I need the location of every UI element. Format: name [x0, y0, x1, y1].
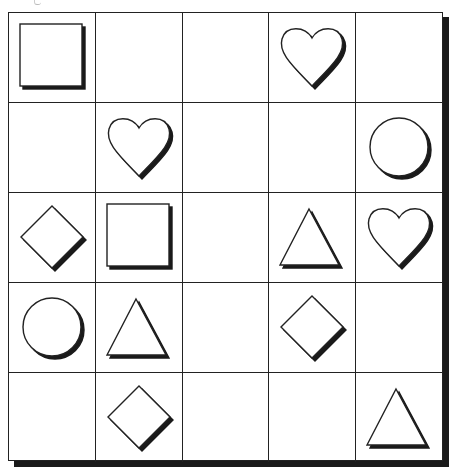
heart-icon	[356, 193, 442, 282]
puzzle-stage	[0, 0, 459, 472]
grid-cell-r5-c2	[96, 373, 183, 462]
grid-cell-r4-c1	[9, 283, 96, 373]
grid-cell-r4-c3	[183, 283, 269, 373]
grid-cell-r1-c1	[9, 13, 96, 103]
diamond-icon	[269, 283, 355, 372]
diamond-icon	[9, 193, 95, 282]
grid-cell-r2-c5	[356, 103, 442, 193]
grid-cell-r1-c4	[269, 13, 356, 103]
grid-cell-r3-c1	[9, 193, 96, 283]
circle-icon	[356, 103, 442, 192]
triangle-icon	[269, 193, 355, 282]
grid-cell-r1-c2	[96, 13, 183, 103]
grid-cell-r3-c5	[356, 193, 442, 283]
grid-cell-r2-c1	[9, 103, 96, 193]
grid-cell-r5-c1	[9, 373, 96, 462]
grid-cell-r5-c4	[269, 373, 356, 462]
grid-cell-r2-c4	[269, 103, 356, 193]
triangle-icon	[356, 373, 442, 462]
heart-icon	[96, 103, 182, 192]
grid-cell-r5-c3	[183, 373, 269, 462]
triangle-icon	[96, 283, 182, 372]
grid-cell-r1-c3	[183, 13, 269, 103]
grid-cell-r4-c4	[269, 283, 356, 373]
grid-cell-r1-c5	[356, 13, 442, 103]
grid-cell-r3-c4	[269, 193, 356, 283]
heart-icon	[269, 13, 355, 102]
circle-icon	[9, 283, 95, 372]
diamond-icon	[96, 373, 182, 462]
square-icon	[9, 13, 95, 102]
grid-cell-r3-c3	[183, 193, 269, 283]
grid-cell-r2-c2	[96, 103, 183, 193]
grid-cell-r5-c5	[356, 373, 442, 462]
square-icon	[96, 193, 182, 282]
grid-cell-r4-c5	[356, 283, 442, 373]
grid-cell-r2-c3	[183, 103, 269, 193]
grid-cell-r4-c2	[96, 283, 183, 373]
shape-grid	[8, 12, 443, 461]
cropped-text-fragment	[34, 0, 41, 5]
grid-cell-r3-c2	[96, 193, 183, 283]
